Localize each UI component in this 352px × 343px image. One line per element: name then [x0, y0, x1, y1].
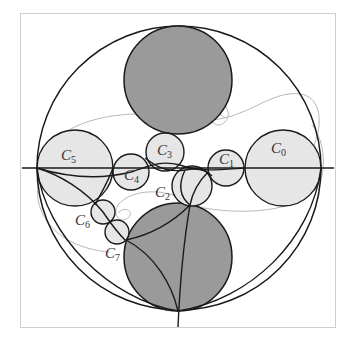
- label-c7: C7: [105, 245, 120, 263]
- label-c2: C2: [155, 184, 170, 202]
- circle-chain-diagram: C0 C1 C2 C3 C4 C5 C6 C7: [0, 0, 352, 343]
- label-c6: C6: [75, 212, 90, 230]
- lower-dark-disc: [124, 203, 232, 311]
- upper-dark-disc: [124, 26, 232, 134]
